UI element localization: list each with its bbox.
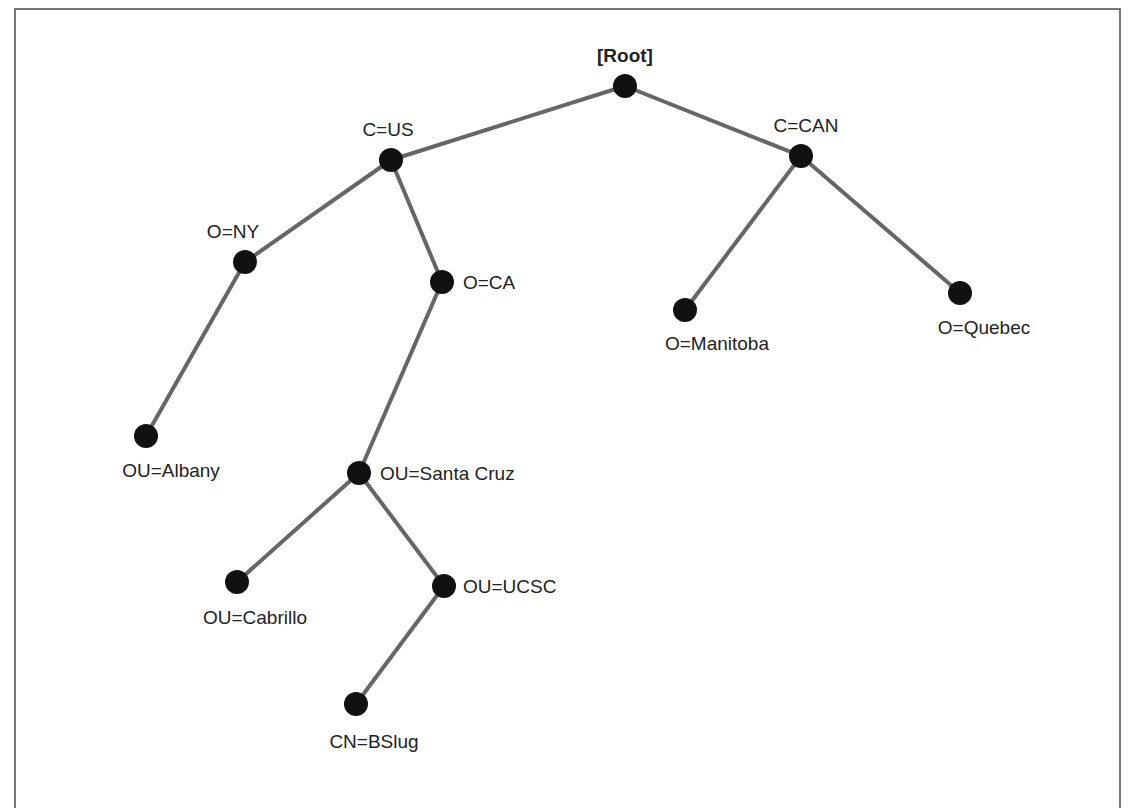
edge-ou_santacruz-ou_ucsc [359, 473, 444, 586]
node-ou-ucsc [432, 574, 456, 598]
node-label-cn-bslug: CN=BSlug [329, 731, 418, 752]
node-label-o-quebec: O=Quebec [938, 317, 1030, 338]
edge-root-c_us [391, 86, 625, 160]
node-label-ou-ucsc: OU=UCSC [463, 576, 556, 597]
edge-ou_santacruz-ou_cabrillo [237, 473, 359, 582]
tree-labels: [Root]C=USC=CANO=NYO=CAO=ManitobaO=Quebe… [122, 45, 1030, 752]
node-root [613, 74, 637, 98]
node-c-can [789, 144, 813, 168]
node-label-o-ca: O=CA [463, 272, 516, 293]
node-label-o-manitoba: O=Manitoba [665, 333, 769, 354]
node-o-ny [233, 250, 257, 274]
node-label-ou-santacruz: OU=Santa Cruz [380, 463, 515, 484]
node-c-us [379, 148, 403, 172]
node-label-c-us: C=US [362, 119, 413, 140]
node-label-root: [Root] [597, 45, 653, 66]
node-o-ca [430, 270, 454, 294]
node-label-ou-cabrillo: OU=Cabrillo [203, 607, 307, 628]
node-label-o-ny: O=NY [207, 221, 260, 242]
node-cn-bslug [344, 692, 368, 716]
node-ou-albany [134, 424, 158, 448]
node-ou-santacruz [347, 461, 371, 485]
edge-ou_ucsc-cn_bslug [356, 586, 444, 704]
edge-c_can-o_manitoba [685, 156, 801, 310]
node-o-manitoba [673, 298, 697, 322]
edge-c_can-o_quebec [801, 156, 960, 293]
node-o-quebec [948, 281, 972, 305]
edge-c_us-o_ca [391, 160, 442, 282]
node-label-c-can: C=CAN [774, 115, 839, 136]
edge-o_ny-ou_albany [146, 262, 245, 436]
edge-c_us-o_ny [245, 160, 391, 262]
edge-o_ca-ou_santacruz [359, 282, 442, 473]
node-ou-cabrillo [225, 570, 249, 594]
node-label-ou-albany: OU=Albany [122, 460, 220, 481]
